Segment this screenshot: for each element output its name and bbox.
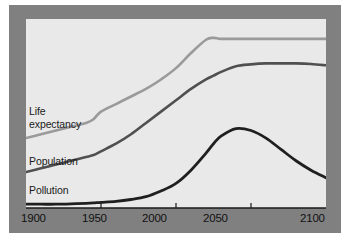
x-axis-tick-label-2050: 2050 xyxy=(203,212,228,224)
series-label-population: Population xyxy=(29,155,78,168)
x-axis-tick-label-1950: 1950 xyxy=(82,212,107,224)
series-label-pollution: Pollution xyxy=(29,184,68,197)
chart-figure: Life expectancy Population Pollution 190… xyxy=(0,0,350,241)
x-axis-tick-label-2000: 2000 xyxy=(142,212,167,224)
x-axis-tick-label-1900: 1900 xyxy=(21,212,46,224)
series-label-life-expectancy: Life expectancy xyxy=(29,105,81,130)
x-axis-tick-label-2100: 2100 xyxy=(300,212,325,224)
